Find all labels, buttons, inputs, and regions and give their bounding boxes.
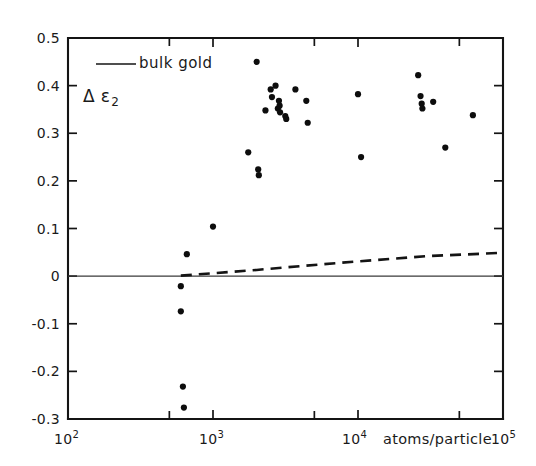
x-tick-label: 103 xyxy=(199,430,224,446)
data-point xyxy=(269,94,275,100)
dashed-model-curve xyxy=(181,253,503,276)
x-tick-mantissa: 10 xyxy=(342,431,360,447)
data-point xyxy=(178,308,184,314)
axis-ticks xyxy=(68,38,503,419)
y-tick-label: -0.1 xyxy=(8,317,60,331)
x-tick-mantissa: 10 xyxy=(491,431,509,447)
data-point xyxy=(254,59,260,65)
data-point xyxy=(268,86,274,92)
y-tick-label: -0.2 xyxy=(8,364,60,378)
data-point xyxy=(415,72,421,78)
y-axis-label-subscript: 2 xyxy=(111,95,120,109)
figure-container: 0.50.40.30.20.10-0.1-0.2-0.3 10210310410… xyxy=(0,0,536,466)
data-point xyxy=(419,105,425,111)
x-axis-label: atoms/particle xyxy=(383,432,492,447)
data-point xyxy=(292,86,298,92)
y-axis-label-epsilon: ε xyxy=(101,86,111,106)
legend-label-bulk-gold: bulk gold xyxy=(139,56,213,71)
x-tick-exponent: 4 xyxy=(360,429,367,440)
data-point xyxy=(277,109,283,115)
model-dashed-curve xyxy=(181,253,503,276)
y-axis-label-delta: Δ xyxy=(83,86,96,106)
x-tick-exponent: 2 xyxy=(72,429,79,440)
x-tick-exponent: 3 xyxy=(217,429,224,440)
data-point xyxy=(272,83,278,89)
data-point xyxy=(277,103,283,109)
plot-frame xyxy=(68,38,503,419)
data-points xyxy=(178,59,476,411)
data-point xyxy=(442,144,448,150)
y-axis-label: Δε2 xyxy=(83,88,120,108)
data-point xyxy=(180,384,186,390)
data-point xyxy=(283,116,289,122)
data-point xyxy=(255,166,261,172)
data-point xyxy=(262,107,268,113)
x-tick-label: 102 xyxy=(54,430,79,446)
data-point xyxy=(181,404,187,410)
data-point xyxy=(245,149,251,155)
scatter-plot xyxy=(0,0,536,466)
frame-outline xyxy=(68,38,503,419)
data-point xyxy=(178,283,184,289)
data-point xyxy=(430,99,436,105)
data-point xyxy=(305,120,311,126)
x-tick-label: 104 xyxy=(342,430,367,446)
y-tick-label: 0.1 xyxy=(8,222,60,236)
x-tick-mantissa: 10 xyxy=(54,431,72,447)
data-point xyxy=(210,224,216,230)
y-tick-label: 0 xyxy=(8,269,60,283)
data-point xyxy=(358,154,364,160)
x-tick-label: 105 xyxy=(491,430,516,446)
y-tick-label: 0.3 xyxy=(8,126,60,140)
data-point xyxy=(184,251,190,257)
x-tick-mantissa: 10 xyxy=(199,431,217,447)
y-tick-label: -0.3 xyxy=(8,412,60,426)
data-point xyxy=(303,98,309,104)
data-point xyxy=(355,91,361,97)
data-point xyxy=(417,93,423,99)
y-tick-label: 0.2 xyxy=(8,174,60,188)
y-tick-label: 0.5 xyxy=(8,31,60,45)
x-tick-exponent: 5 xyxy=(509,429,516,440)
data-point xyxy=(470,112,476,118)
y-tick-label: 0.4 xyxy=(8,79,60,93)
data-point xyxy=(256,172,262,178)
